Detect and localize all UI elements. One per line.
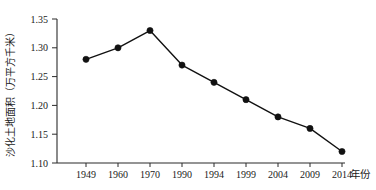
line-chart-figure: 1.35 1.30 1.25 1.20 1.15 1.10 1949 1960 … — [0, 0, 376, 190]
x-axis-ticks — [86, 163, 342, 167]
data-markers — [83, 27, 345, 154]
y-axis-title: 沙化土地面积（万平方千米） — [4, 27, 16, 157]
x-tick-label: 1970 — [140, 169, 160, 180]
x-tick-label: 2014 — [332, 169, 352, 180]
x-tick-label: 2004 — [268, 169, 288, 180]
data-point-marker — [339, 148, 345, 154]
x-tick-label: 1994 — [204, 169, 224, 180]
data-point-marker — [211, 79, 217, 85]
y-tick-label: 1.35 — [31, 14, 49, 25]
y-tick-label: 1.10 — [31, 158, 49, 169]
data-point-marker — [275, 114, 281, 120]
chart-canvas: 1.35 1.30 1.25 1.20 1.15 1.10 1949 1960 … — [0, 0, 376, 190]
x-tick-label: 1990 — [172, 169, 192, 180]
x-axis-title: 年份 — [350, 168, 371, 180]
data-point-marker — [179, 62, 185, 68]
x-tick-label: 2009 — [300, 169, 320, 180]
plot-axes — [57, 19, 345, 163]
data-point-marker — [115, 45, 121, 51]
y-tick-label: 1.30 — [31, 42, 49, 53]
x-tick-label: 1960 — [108, 169, 128, 180]
data-point-marker — [147, 27, 153, 33]
y-axis-ticks — [52, 19, 57, 163]
data-line — [86, 31, 342, 152]
data-point-marker — [83, 56, 89, 62]
y-tick-label: 1.15 — [31, 129, 49, 140]
x-axis-tick-labels: 1949 1960 1970 1990 1994 1999 2004 2009 … — [76, 169, 352, 180]
y-axis-tick-labels: 1.35 1.30 1.25 1.20 1.15 1.10 — [31, 14, 49, 169]
y-tick-label: 1.20 — [31, 100, 49, 111]
data-point-marker — [243, 97, 249, 103]
y-tick-label: 1.25 — [31, 71, 49, 82]
data-series-group — [83, 27, 345, 154]
x-tick-label: 1999 — [236, 169, 256, 180]
x-tick-label: 1949 — [76, 169, 96, 180]
data-point-marker — [307, 125, 313, 131]
